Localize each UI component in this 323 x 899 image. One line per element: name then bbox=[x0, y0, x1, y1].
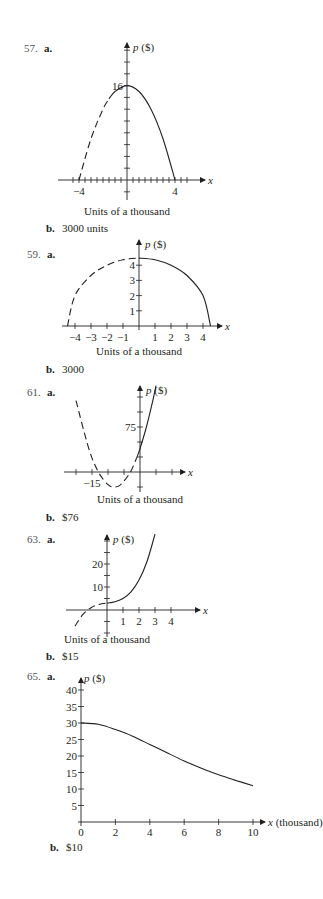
part-b-label: b. bbox=[46, 650, 55, 662]
x-tick-label: 4 bbox=[172, 185, 178, 197]
x-axis-label: x bbox=[202, 604, 208, 616]
x-tick-label: 0 bbox=[78, 826, 84, 838]
part-b-answer: $76 bbox=[62, 511, 79, 523]
y-axis-label: p ($) bbox=[112, 533, 134, 546]
part-b-label: b. bbox=[46, 511, 55, 523]
x-tick-label: 10 bbox=[248, 826, 260, 838]
y-tick-label: 35 bbox=[66, 701, 78, 713]
chart-59: 59.a.p ($)x−4−3−2−112341234Units of a th… bbox=[27, 238, 230, 375]
part-b-answer: $10 bbox=[66, 841, 83, 853]
x-tick-label: 2 bbox=[168, 331, 174, 343]
y-tick-label: 15 bbox=[66, 767, 78, 779]
part-a-label: a. bbox=[47, 533, 56, 545]
y-axis-label: p ($) bbox=[144, 238, 166, 251]
x-tick-label: −3 bbox=[85, 331, 97, 343]
chart-65: 65.a.p ($)x (thousand)024681051015202530… bbox=[27, 670, 323, 853]
x-tick-label: −4 bbox=[69, 331, 81, 343]
x-tick-label: 2 bbox=[136, 615, 142, 627]
series-dashed-curve bbox=[68, 258, 140, 326]
y-tick-label: 2 bbox=[130, 290, 136, 302]
x-axis-label: x (thousand) bbox=[267, 816, 323, 829]
y-tick-label: 3 bbox=[130, 274, 136, 286]
x-tick-label: 4 bbox=[147, 826, 153, 838]
part-b-answer: 3000 units bbox=[62, 222, 108, 234]
x-axis-label: x bbox=[187, 466, 193, 478]
x-tick-label: 6 bbox=[181, 826, 187, 838]
part-b-label: b. bbox=[50, 841, 59, 853]
y-axis-label: p ($) bbox=[83, 672, 105, 685]
series-solid-curve bbox=[139, 258, 211, 326]
y-tick-label: 30 bbox=[66, 717, 78, 729]
x-axis-caption: Units of a thousand bbox=[84, 205, 170, 217]
x-tick-label: 2 bbox=[113, 826, 119, 838]
x-tick-label: −2 bbox=[101, 331, 113, 343]
part-a-label: a. bbox=[47, 670, 56, 682]
x-tick-label: 1 bbox=[152, 331, 158, 343]
x-tick-label: −4 bbox=[73, 185, 85, 197]
y-tick-label: 75 bbox=[125, 421, 137, 433]
series-solid-curve bbox=[109, 86, 175, 180]
chart-57: 57.a.p ($)x−4416Units of a thousandb.300… bbox=[24, 41, 213, 234]
problem-number: 63. bbox=[27, 533, 41, 545]
answers-figure: 57.a.p ($)x−4416Units of a thousandb.300… bbox=[0, 0, 323, 899]
part-b-label: b. bbox=[46, 363, 55, 375]
x-axis-caption: Units of a thousand bbox=[96, 345, 182, 357]
x-axis-label: x bbox=[207, 174, 213, 186]
problem-number: 61. bbox=[27, 386, 41, 398]
part-b-answer: 3000 bbox=[62, 363, 85, 375]
x-axis-caption: Units of a thousand bbox=[64, 633, 150, 645]
x-axis-label: x bbox=[224, 320, 230, 332]
y-tick-label: 1 bbox=[130, 305, 136, 317]
x-tick-label: 4 bbox=[200, 331, 206, 343]
x-axis-caption: Units of a thousand bbox=[97, 493, 183, 505]
chart-61: 61.a.p ($)x−1575Units of a thousandb.$76 bbox=[27, 384, 193, 523]
x-tick-label: 3 bbox=[184, 331, 190, 343]
part-b-label: b. bbox=[46, 222, 55, 234]
y-tick-label: 5 bbox=[72, 800, 78, 812]
x-tick-label: 4 bbox=[168, 615, 174, 627]
y-tick-label: 20 bbox=[92, 558, 104, 570]
x-tick-label: 8 bbox=[216, 826, 222, 838]
part-b-answer: $15 bbox=[62, 650, 79, 662]
y-tick-label: 25 bbox=[66, 734, 78, 746]
y-tick-label: 20 bbox=[66, 750, 78, 762]
x-tick-label: −1 bbox=[117, 331, 129, 343]
part-a-label: a. bbox=[44, 42, 53, 54]
y-axis-label: p ($) bbox=[132, 41, 154, 54]
y-tick-label: 10 bbox=[92, 581, 104, 593]
part-a-label: a. bbox=[47, 248, 56, 260]
x-tick-label: −15 bbox=[83, 477, 101, 489]
series-dashed-curve bbox=[76, 401, 137, 487]
x-tick-label: 3 bbox=[152, 615, 158, 627]
problem-number: 59. bbox=[27, 248, 41, 260]
series-solid-curve bbox=[81, 723, 253, 786]
chart-63: 63.a.p ($)x12341020Units of a thousandb.… bbox=[27, 533, 208, 662]
y-tick-label: 40 bbox=[66, 684, 78, 696]
series-dashed-curve bbox=[79, 99, 109, 180]
part-a-label: a. bbox=[47, 386, 56, 398]
y-tick-label: 4 bbox=[130, 259, 136, 271]
y-tick-label: 10 bbox=[66, 783, 78, 795]
problem-number: 57. bbox=[24, 42, 38, 54]
series-dashed-curve bbox=[75, 603, 107, 626]
x-tick-label: 1 bbox=[120, 615, 126, 627]
problem-number: 65. bbox=[27, 670, 41, 682]
